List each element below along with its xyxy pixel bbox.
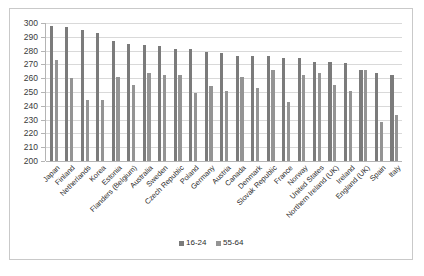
y-axis-tick bbox=[41, 37, 45, 38]
y-axis-tick bbox=[41, 78, 45, 79]
bar[interactable] bbox=[236, 56, 239, 161]
bar-group bbox=[92, 23, 107, 161]
bar-group bbox=[201, 23, 216, 161]
bar[interactable] bbox=[349, 91, 352, 161]
legend-item[interactable]: 55-64 bbox=[216, 239, 244, 247]
y-axis-tick-label: 260 bbox=[24, 74, 38, 83]
y-axis-tick-label: 240 bbox=[24, 102, 38, 111]
bar[interactable] bbox=[344, 63, 347, 161]
y-axis-tick bbox=[41, 106, 45, 107]
bar-group bbox=[309, 23, 324, 161]
bar[interactable] bbox=[256, 88, 259, 161]
plot-wrapper: 300290280270260250240230220210200 bbox=[45, 23, 402, 161]
bar[interactable] bbox=[364, 70, 367, 161]
bar[interactable] bbox=[86, 100, 89, 161]
plot-area bbox=[45, 23, 402, 161]
bar[interactable] bbox=[395, 115, 398, 161]
bar-group bbox=[325, 23, 340, 161]
bar[interactable] bbox=[127, 44, 130, 161]
bar[interactable] bbox=[225, 91, 228, 161]
bar[interactable] bbox=[298, 58, 301, 162]
chart-legend: 16-2455-64 bbox=[10, 239, 412, 247]
legend-item[interactable]: 16-24 bbox=[179, 239, 207, 247]
bar[interactable] bbox=[116, 77, 119, 161]
y-axis-tick-label: 270 bbox=[24, 60, 38, 69]
y-axis-tick-label: 220 bbox=[24, 129, 38, 138]
bar[interactable] bbox=[209, 86, 212, 161]
bar[interactable] bbox=[143, 45, 146, 161]
y-axis-tick-label: 210 bbox=[24, 143, 38, 152]
legend-label: 16-24 bbox=[186, 239, 206, 247]
bar[interactable] bbox=[240, 77, 243, 161]
bar-group bbox=[216, 23, 231, 161]
bar-group bbox=[356, 23, 371, 161]
y-axis-tick bbox=[41, 64, 45, 65]
y-axis-tick-label: 300 bbox=[24, 19, 38, 28]
bar-group bbox=[340, 23, 355, 161]
y-axis-tick bbox=[41, 23, 45, 24]
y-axis-tick-label: 280 bbox=[24, 46, 38, 55]
legend-swatch-icon bbox=[179, 241, 184, 246]
bar[interactable] bbox=[189, 49, 192, 161]
bar[interactable] bbox=[220, 53, 223, 161]
bar[interactable] bbox=[282, 58, 285, 162]
bar-group bbox=[247, 23, 262, 161]
bar[interactable] bbox=[81, 30, 84, 161]
y-axis-tick-label: 290 bbox=[24, 33, 38, 42]
bar[interactable] bbox=[65, 27, 68, 161]
bar-group bbox=[154, 23, 169, 161]
bar[interactable] bbox=[390, 75, 393, 161]
bar-group bbox=[139, 23, 154, 161]
bar[interactable] bbox=[50, 26, 53, 161]
bar-group bbox=[185, 23, 200, 161]
bar[interactable] bbox=[101, 100, 104, 161]
bar-group bbox=[387, 23, 402, 161]
bar[interactable] bbox=[359, 70, 362, 161]
bar[interactable] bbox=[70, 78, 73, 161]
bar-group bbox=[278, 23, 293, 161]
bar[interactable] bbox=[251, 56, 254, 161]
bar[interactable] bbox=[271, 70, 274, 161]
gridline bbox=[46, 161, 402, 162]
bar-group bbox=[46, 23, 61, 161]
bar[interactable] bbox=[205, 52, 208, 161]
y-axis-tick-label: 200 bbox=[24, 157, 38, 166]
x-axis-tick-label: Spain bbox=[368, 164, 387, 183]
bar-group bbox=[61, 23, 76, 161]
bar[interactable] bbox=[55, 60, 58, 161]
bar[interactable] bbox=[163, 75, 166, 161]
bar[interactable] bbox=[318, 73, 321, 161]
bar-group bbox=[77, 23, 92, 161]
bar[interactable] bbox=[194, 93, 197, 161]
bar[interactable] bbox=[333, 85, 336, 161]
bar-group bbox=[108, 23, 123, 161]
bar[interactable] bbox=[132, 85, 135, 161]
y-axis-tick-label: 250 bbox=[24, 88, 38, 97]
x-axis-tick-label: Italy bbox=[388, 164, 403, 179]
y-axis-tick bbox=[41, 147, 45, 148]
bar[interactable] bbox=[112, 41, 115, 161]
y-axis-tick bbox=[41, 120, 45, 121]
bar[interactable] bbox=[287, 102, 290, 161]
bar[interactable] bbox=[267, 56, 270, 161]
y-axis-tick bbox=[41, 92, 45, 93]
bar[interactable] bbox=[178, 75, 181, 161]
bar[interactable] bbox=[174, 49, 177, 161]
bar[interactable] bbox=[147, 73, 150, 161]
legend-swatch-icon bbox=[216, 241, 221, 246]
bar[interactable] bbox=[328, 62, 331, 161]
bar-group bbox=[232, 23, 247, 161]
bar-group bbox=[170, 23, 185, 161]
bar-series-container bbox=[46, 23, 402, 161]
bar[interactable] bbox=[313, 62, 316, 161]
bar-group bbox=[123, 23, 138, 161]
bar[interactable] bbox=[375, 73, 378, 161]
y-axis-tick-label: 230 bbox=[24, 115, 38, 124]
y-axis-tick bbox=[41, 51, 45, 52]
bar-group bbox=[263, 23, 278, 161]
bar[interactable] bbox=[302, 75, 305, 161]
bar[interactable] bbox=[96, 33, 99, 161]
bar[interactable] bbox=[158, 46, 161, 161]
bar[interactable] bbox=[380, 122, 383, 161]
y-axis-tick bbox=[41, 133, 45, 134]
